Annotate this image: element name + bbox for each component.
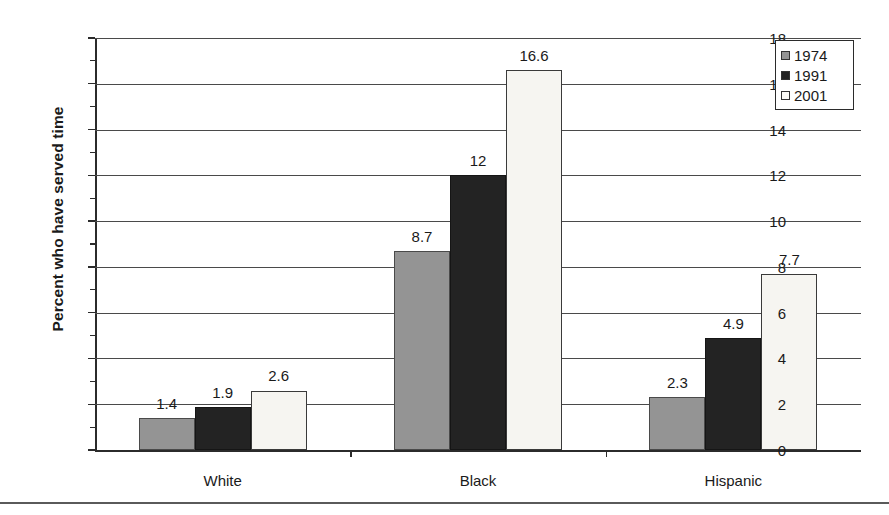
y-tick-major	[88, 449, 95, 450]
bar-value-label: 2.3	[667, 375, 688, 390]
legend[interactable]: 197419912001	[775, 40, 854, 110]
y-tick-label: 4	[746, 351, 786, 366]
bar-white-1991[interactable]	[195, 407, 251, 450]
bar-value-label: 1.4	[156, 396, 177, 411]
y-tick-label: 0	[746, 443, 786, 458]
y-tick-label: 14	[746, 122, 786, 137]
y-tick-label: 10	[746, 214, 786, 229]
legend-item-2001[interactable]: 2001	[781, 85, 849, 105]
y-tick-minor	[90, 152, 95, 153]
legend-item-1974[interactable]: 1974	[781, 45, 849, 65]
category-separator	[350, 450, 351, 457]
bar-value-label: 8.7	[412, 229, 433, 244]
bar-white-2001[interactable]	[251, 391, 307, 451]
y-tick-major	[88, 37, 95, 38]
legend-item-label: 1991	[794, 68, 827, 83]
legend-item-label: 2001	[794, 88, 827, 103]
bar-value-label: 1.9	[212, 385, 233, 400]
bar-value-label: 12	[470, 153, 487, 168]
y-tick-major	[88, 220, 95, 221]
bar-black-1974[interactable]	[394, 251, 450, 450]
category-label-hispanic: Hispanic	[705, 472, 763, 489]
bar-black-1991[interactable]	[450, 175, 506, 450]
legend-item-label: 1974	[794, 48, 827, 63]
bar-value-label: 2.6	[268, 368, 289, 383]
y-tick-major	[88, 83, 95, 84]
y-tick-minor	[90, 60, 95, 61]
plot-area: 1.41.92.68.71216.62.34.97.7 WhiteBlackHi…	[95, 38, 861, 450]
y-tick-minor	[90, 243, 95, 244]
y-tick-major	[88, 266, 95, 267]
y-tick-label: 12	[746, 168, 786, 183]
y-tick-minor	[90, 427, 95, 428]
legend-swatch-2001	[781, 91, 790, 100]
bar-black-2001[interactable]	[506, 70, 562, 450]
bar-value-label: 16.6	[519, 48, 548, 63]
bar-value-label: 4.9	[723, 316, 744, 331]
y-tick-label: 8	[746, 259, 786, 274]
category-label-black: Black	[460, 472, 497, 489]
legend-swatch-1974	[781, 51, 790, 60]
y-tick-major	[88, 404, 95, 405]
y-tick-major	[88, 175, 95, 176]
category-label-white: White	[203, 472, 241, 489]
y-tick-minor	[90, 106, 95, 107]
y-tick-label: 2	[746, 397, 786, 412]
bar-white-1974[interactable]	[139, 418, 195, 450]
legend-item-1991[interactable]: 1991	[781, 65, 849, 85]
y-tick-major	[88, 129, 95, 130]
y-tick-minor	[90, 198, 95, 199]
bottom-divider	[0, 502, 889, 504]
y-tick-label: 6	[746, 305, 786, 320]
y-tick-minor	[90, 381, 95, 382]
y-tick-minor	[90, 335, 95, 336]
y-tick-minor	[90, 289, 95, 290]
y-axis-title: Percent who have served time	[49, 9, 67, 429]
category-separator	[606, 450, 607, 457]
bar-chart-figure: Percent who have served time 1.41.92.68.…	[0, 0, 889, 515]
y-tick-major	[88, 312, 95, 313]
bar-hispanic-1974[interactable]	[649, 397, 705, 450]
y-tick-major	[88, 358, 95, 359]
legend-swatch-1991	[781, 71, 790, 80]
y-axis-line	[95, 38, 97, 450]
